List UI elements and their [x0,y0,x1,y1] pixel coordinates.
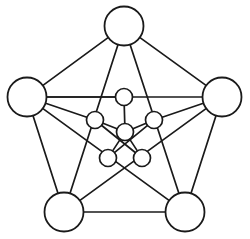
graph-canvas [0,0,250,239]
graph-node-inner_right [146,112,163,129]
graph-edge [139,37,206,86]
graph-figure [0,0,250,239]
graph-node-bottom_right [166,193,205,232]
graph-node-top [105,7,144,46]
graph-edge [191,115,216,194]
graph-node-inner_bottom_left [100,150,117,167]
graph-edge [33,115,58,194]
graph-node-inner_left [87,112,104,129]
graph-node-inner_bottom_right [134,150,151,167]
graph-edge [124,105,125,124]
graph-node-left [8,78,47,117]
graph-node-inner_top [116,89,133,106]
graph-node-right [203,78,242,117]
graph-node-bottom_left [45,193,84,232]
graph-edge [42,37,108,86]
graph-node-inner_center [117,124,134,141]
